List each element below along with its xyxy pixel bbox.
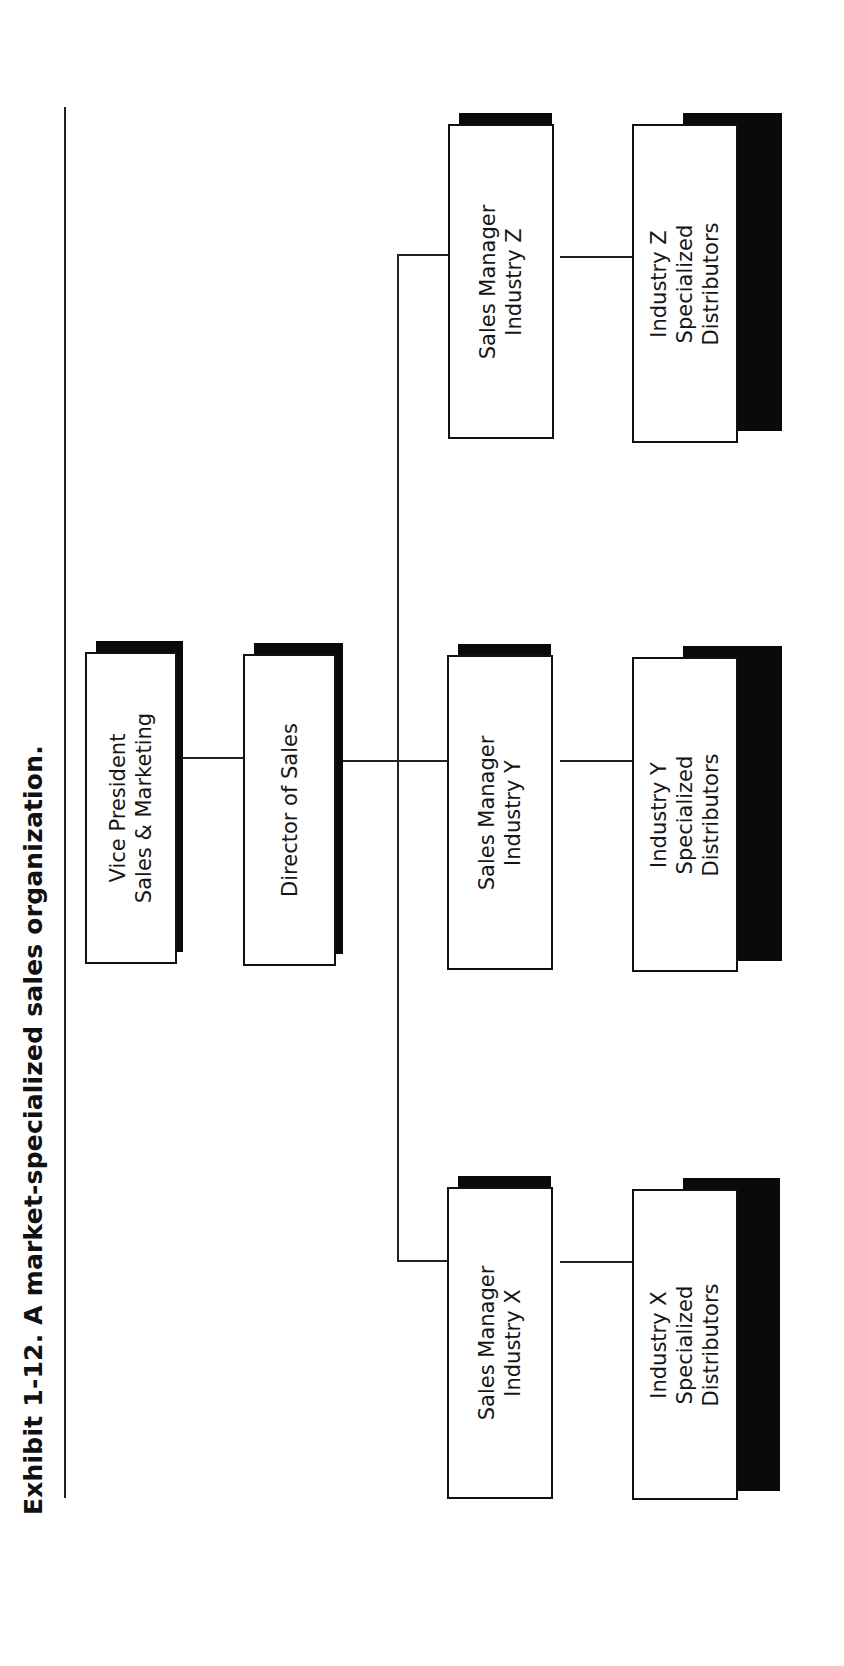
distributors-y-box: Industry Y Specialized Distributors — [632, 657, 738, 972]
distributors-z-box: Industry Z Specialized Distributors — [632, 124, 738, 443]
connector-sm-y-dist-y — [560, 760, 634, 762]
connector-spine — [397, 254, 399, 1262]
sales-manager-y-label: Sales Manager Industry Y — [474, 735, 526, 890]
vp-label: Vice President Sales & Marketing — [105, 713, 157, 903]
sales-manager-z-label: Sales Manager Industry Z — [475, 204, 527, 359]
connector-director-spine — [343, 760, 399, 762]
distributors-x-label: Industry X Specialized Distributors — [646, 1283, 724, 1406]
exhibit-number: Exhibit 1-12. — [19, 1334, 48, 1515]
distributors-z-label: Industry Z Specialized Distributors — [646, 222, 724, 345]
title-rule — [64, 107, 66, 1498]
connector-sm-x-dist-x — [560, 1261, 634, 1263]
distributors-x-box: Industry X Specialized Distributors — [632, 1189, 738, 1500]
connector-spine-sm-z — [397, 254, 450, 256]
sales-manager-x-label: Sales Manager Industry X — [474, 1266, 526, 1421]
sales-manager-x-box: Sales Manager Industry X — [447, 1187, 553, 1499]
connector-spine-sm-x — [397, 1260, 450, 1262]
exhibit-caption: A market-specialized sales organization. — [19, 745, 48, 1325]
sales-manager-z-box: Sales Manager Industry Z — [448, 124, 554, 439]
connector-spine-sm-y — [397, 760, 450, 762]
vp-box: Vice President Sales & Marketing — [85, 652, 177, 964]
director-label: Director of Sales — [277, 723, 303, 897]
connector-sm-z-dist-z — [560, 256, 634, 258]
distributors-y-label: Industry Y Specialized Distributors — [646, 753, 724, 876]
director-box: Director of Sales — [243, 654, 336, 966]
sales-manager-y-box: Sales Manager Industry Y — [447, 655, 553, 970]
connector-vp-director — [183, 757, 245, 759]
exhibit-title: Exhibit 1-12. A market-specialized sales… — [14, 95, 54, 1515]
